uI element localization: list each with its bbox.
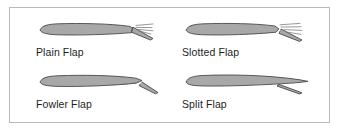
split-flap-element: [277, 84, 302, 94]
extended-fowler-flap: [139, 82, 158, 94]
panel-slotted-flap-label: Slotted Flap: [182, 46, 239, 58]
diagram-frame: Plain Flap Slotted Flap: [9, 7, 330, 123]
panel-fowler-flap-label: Fowler Flap: [36, 98, 92, 110]
slotted-flap-illustration: [178, 18, 323, 46]
panel-plain-flap: Plain Flap: [32, 18, 172, 73]
airfoil-body: [40, 75, 142, 86]
fowler-flap-illustration: [32, 70, 172, 98]
panel-plain-flap-label: Plain Flap: [36, 46, 84, 58]
split-flap-illustration: [178, 70, 323, 98]
slot-gap: [139, 83, 141, 84]
panel-split-flap-label: Split Flap: [182, 98, 227, 110]
panel-split-flap: Split Flap: [178, 70, 323, 125]
plain-flap-illustration: [32, 18, 172, 46]
airfoil-body: [186, 23, 279, 35]
panel-fowler-flap: Fowler Flap: [32, 70, 172, 125]
airfoil-body: [40, 23, 135, 35]
airfoil-body: [186, 75, 308, 86]
slotted-flap-element: [279, 29, 302, 41]
flap-types-diagram: Plain Flap Slotted Flap: [0, 0, 339, 132]
panel-slotted-flap: Slotted Flap: [178, 18, 323, 73]
